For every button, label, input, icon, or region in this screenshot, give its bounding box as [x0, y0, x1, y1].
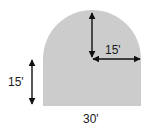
- width-label: 30': [83, 112, 99, 126]
- height-label: 15': [8, 75, 24, 89]
- floor-plan-diagram: 15' 15' 30': [0, 0, 151, 133]
- radius-label: 15': [105, 43, 121, 57]
